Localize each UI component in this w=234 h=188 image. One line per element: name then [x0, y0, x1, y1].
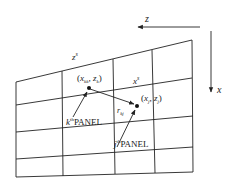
point-j [135, 104, 139, 108]
panel-grid [16, 40, 193, 177]
panel-grid-diagram: z x zs xs rkj (xkk, zk) (xj, zj) kthPANE… [0, 0, 234, 188]
grid-col-line [113, 59, 115, 174]
grid-row-line [16, 147, 193, 159]
z-axis-label: z [144, 13, 149, 24]
point-j-coord-label: (xj, zj) [141, 93, 162, 104]
x-axis-label: x [216, 84, 222, 95]
grid-row-line [16, 116, 193, 132]
grid-row-line [16, 78, 192, 105]
r-kj-arrow [90, 89, 134, 104]
point-k-coord-label: (xkk, zk) [77, 73, 102, 84]
grid-outline [16, 40, 193, 177]
k-panel-label: kthPANEL [66, 117, 102, 127]
x-s-label: xs [132, 75, 140, 86]
r-kj-label: rkj [117, 106, 124, 116]
grid-col-line [152, 50, 155, 173]
grid-col-line [62, 71, 63, 176]
z-s-label: zs [71, 51, 79, 62]
